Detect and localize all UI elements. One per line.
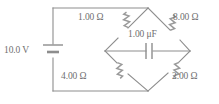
battery-symbol [43,45,63,52]
resistor-4ohm-shape [117,63,123,79]
wire-arm-top-right-b [180,40,190,51]
bridge-branch [105,43,190,59]
resistor-top-left-label: 1.00 Ω [78,13,103,23]
circuit-diagram: 10.0 V 1.00 Ω 8.00 Ω 1.00 μF 4.00 Ω 2.00… [0,0,219,104]
resistor-bottom-left-zigzag [117,63,123,79]
capacitor-label: 1.00 μF [128,30,157,40]
resistor-bottom-right-label: 2.00 Ω [172,72,197,82]
resistor-top-left-zigzag [124,12,130,27]
wire-arm-top-left-a [128,8,148,28]
wire-arm-bottom-right-b [148,73,168,91]
wire-arm-bottom-right-a [179,51,190,62]
resistor-top-right-label: 8.00 Ω [173,13,198,23]
source-label: 10.0 V [4,46,29,56]
wire-arm-bottom-left-a [105,51,117,63]
resistor-bottom-left-label: 4.00 Ω [61,72,86,82]
wire-arm-top-left-b [105,38,118,51]
wire-arm-bottom-left-b [128,74,148,91]
wire-arm-top-right-a [148,8,170,30]
